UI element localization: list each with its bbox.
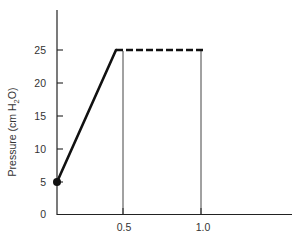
start-point-marker — [53, 178, 61, 186]
y-tick-label: 10 — [34, 143, 46, 155]
y-tick-label: 5 — [40, 176, 46, 188]
pressure-chart: 25 20 15 10 5 0 Pressure (cm H2O) 0.5 1.… — [0, 0, 299, 238]
pressure-rise-line — [57, 50, 116, 182]
y-axis-title: Pressure (cm H2O) — [6, 88, 21, 177]
y-tick-label: 25 — [34, 44, 46, 56]
y-tick-label: 20 — [34, 77, 46, 89]
y-tick-label: 15 — [34, 110, 46, 122]
y-ticks — [57, 50, 63, 182]
y-tick-labels: 25 20 15 10 5 0 — [34, 44, 46, 220]
x-tick-label: 1.0 — [196, 221, 211, 233]
y-tick-label: 0 — [40, 208, 46, 220]
x-tick-label: 0.5 — [117, 221, 132, 233]
